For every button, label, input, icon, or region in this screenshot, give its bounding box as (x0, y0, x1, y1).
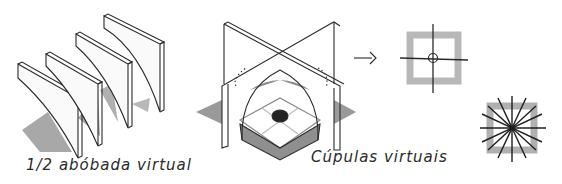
dome-plan-cross (400, 24, 468, 93)
cross-walls-group (196, 22, 356, 160)
dome-plan-star (480, 96, 546, 162)
arrow-icon (354, 52, 376, 64)
center-dot (272, 110, 288, 122)
half-vault-caption: 1/2 abóbada virtual (26, 156, 192, 174)
virtual-domes-caption: Cúpulas virtuais (311, 148, 448, 166)
half-vault-group (18, 14, 164, 158)
